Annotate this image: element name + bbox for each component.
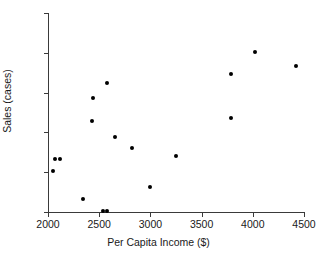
y-tick xyxy=(44,13,48,14)
data-point xyxy=(81,197,85,201)
x-tick xyxy=(304,213,305,217)
data-point xyxy=(53,157,57,161)
data-point xyxy=(174,154,178,158)
x-tick-label: 4500 xyxy=(282,219,317,230)
scatter-plot-figure: 50100150200250300 2000250030003500400045… xyxy=(0,0,317,261)
data-point xyxy=(253,50,257,54)
data-point xyxy=(229,72,233,76)
x-tick-label: 2000 xyxy=(26,219,70,230)
data-point xyxy=(130,146,134,150)
y-axis-title: Sales (cases) xyxy=(1,41,13,161)
data-point xyxy=(91,96,95,100)
x-tick xyxy=(202,213,203,217)
x-axis-line xyxy=(48,212,305,213)
x-tick xyxy=(253,213,254,217)
y-tick xyxy=(44,132,48,133)
y-tick xyxy=(44,53,48,54)
x-axis-title: Per Capita Income ($) xyxy=(0,236,317,248)
data-point xyxy=(294,64,298,68)
x-tick xyxy=(48,213,49,217)
plot-area: 50100150200250300 2000250030003500400045… xyxy=(48,13,304,212)
y-tick xyxy=(44,93,48,94)
data-point xyxy=(51,169,55,173)
y-tick xyxy=(44,172,48,173)
x-tick xyxy=(99,213,100,217)
data-point xyxy=(105,81,109,85)
data-point xyxy=(90,119,94,123)
x-tick xyxy=(150,213,151,217)
x-tick-label: 3500 xyxy=(180,219,224,230)
page-title xyxy=(0,0,317,2)
data-point xyxy=(148,185,152,189)
x-tick-label: 4000 xyxy=(231,219,275,230)
data-point xyxy=(113,135,117,139)
y-axis-line xyxy=(48,13,49,213)
x-tick-label: 2500 xyxy=(77,219,121,230)
x-tick-label: 3000 xyxy=(128,219,172,230)
data-point xyxy=(58,157,62,161)
data-point xyxy=(229,116,233,120)
